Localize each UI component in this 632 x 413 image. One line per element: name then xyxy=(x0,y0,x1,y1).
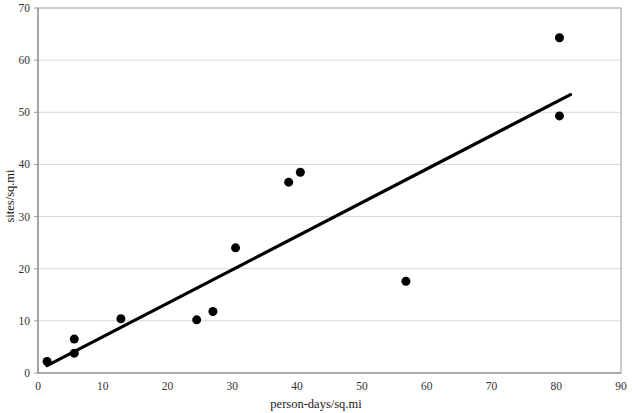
y-tick-label-20: 20 xyxy=(19,263,31,275)
data-point xyxy=(70,335,79,344)
data-point xyxy=(555,111,564,120)
x-tick-label-60: 60 xyxy=(421,380,433,392)
x-tick-label-70: 70 xyxy=(486,380,498,392)
data-point xyxy=(116,314,125,323)
y-tick-label-70: 70 xyxy=(19,2,31,14)
x-tick-label-20: 20 xyxy=(162,380,174,392)
y-tick-label-60: 60 xyxy=(19,54,31,66)
x-tick-label-80: 80 xyxy=(550,380,562,392)
y-tick-label-50: 50 xyxy=(19,106,31,118)
data-point xyxy=(70,349,79,358)
x-tick-label-50: 50 xyxy=(356,380,368,392)
data-point xyxy=(208,307,217,316)
data-point xyxy=(43,357,52,366)
y-tick-label-0: 0 xyxy=(24,367,30,379)
x-tick-label-0: 0 xyxy=(35,380,41,392)
y-axis-title: sites/sq.mi xyxy=(3,169,17,223)
y-tick-label-40: 40 xyxy=(19,158,31,170)
x-tick-label-40: 40 xyxy=(291,380,303,392)
data-point xyxy=(284,178,293,187)
data-point xyxy=(401,277,410,286)
x-tick-label-30: 30 xyxy=(227,380,239,392)
data-point xyxy=(555,33,564,42)
chart-canvas: 0102030405060708090 010203040506070 pers… xyxy=(0,0,632,413)
data-point xyxy=(192,315,201,324)
x-axis-title: person-days/sq.mi xyxy=(270,397,362,411)
y-tick-label-30: 30 xyxy=(19,211,31,223)
data-point xyxy=(231,243,240,252)
x-tick-label-10: 10 xyxy=(97,380,109,392)
x-tick-label-90: 90 xyxy=(615,380,627,392)
scatter-chart: 0102030405060708090 010203040506070 pers… xyxy=(0,0,632,413)
data-point xyxy=(296,168,305,177)
y-tick-label-10: 10 xyxy=(19,315,31,327)
chart-background xyxy=(0,0,632,413)
